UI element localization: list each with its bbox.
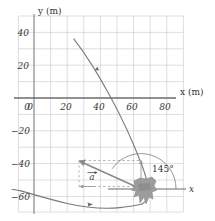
y-tick-labels: 40 20 0 −20 −40 −60	[11, 28, 30, 202]
acceleration-vector	[79, 160, 141, 189]
direction-markers	[88, 67, 99, 207]
arrowhead-upper-path	[95, 67, 99, 71]
x-tick-40: 40	[92, 102, 105, 112]
y-tick-minus40: −40	[11, 159, 30, 169]
y-tick-minus60: −60	[11, 192, 30, 202]
acceleration-vector-label: a	[89, 172, 94, 182]
object-blob-detail	[138, 183, 151, 191]
x-tick-20: 20	[59, 102, 72, 112]
curve-lower-return	[20, 191, 142, 209]
object-marker	[131, 177, 157, 204]
local-x-axis-label: x	[189, 184, 194, 194]
y-tick-40: 40	[17, 28, 30, 38]
x-axis-title: x (m)	[180, 87, 204, 97]
x-tick-80: 80	[159, 102, 171, 112]
ax-arrowhead-icon	[79, 185, 83, 189]
physics-trajectory-figure: 0 20 40 60 80 40 20 0 −20 −40 −60 x (m) …	[0, 0, 215, 221]
angle-label: 145°	[152, 164, 174, 174]
y-tick-minus20: −20	[11, 126, 30, 136]
grid-lines	[18, 16, 183, 212]
arrowhead-lower-path	[88, 202, 93, 206]
y-axis-title: y (m)	[37, 6, 62, 16]
curve-lower-left-tail	[12, 190, 20, 191]
y-tick-20: 20	[17, 61, 30, 71]
x-tick-labels: 0 20 40 60 80	[27, 102, 171, 112]
curve-main-trajectory	[74, 39, 148, 204]
figure-canvas: 0 20 40 60 80 40 20 0 −20 −40 −60 x (m) …	[0, 0, 215, 221]
y-tick-0: 0	[24, 102, 30, 112]
x-tick-60: 60	[126, 102, 138, 112]
